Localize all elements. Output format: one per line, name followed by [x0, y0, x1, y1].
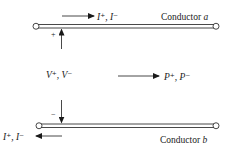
current-top-label: I⁺, I⁻ — [96, 12, 118, 22]
current-bottom-label: I⁺, I⁻ — [2, 132, 24, 142]
conductor-b-right-end — [213, 123, 219, 129]
voltage-plus-sign: + — [51, 30, 56, 39]
conductor-b-label: Conductor b — [160, 135, 207, 145]
conductor-a-right-end — [213, 23, 219, 29]
transmission-line-diagram: Conductor a I⁺, I⁻ Conductor b I⁺, I⁻ + … — [0, 0, 230, 151]
voltage-label: V⁺, V⁻ — [46, 70, 72, 80]
conductor-a-label: Conductor a — [161, 12, 208, 22]
conductor-a — [33, 23, 219, 29]
power-label: P⁺, P⁻ — [163, 72, 190, 82]
conductor-a-left-end — [33, 23, 39, 29]
voltage-minus-sign: − — [51, 110, 56, 119]
conductor-b-left-end — [36, 123, 42, 129]
conductor-b — [36, 123, 219, 129]
